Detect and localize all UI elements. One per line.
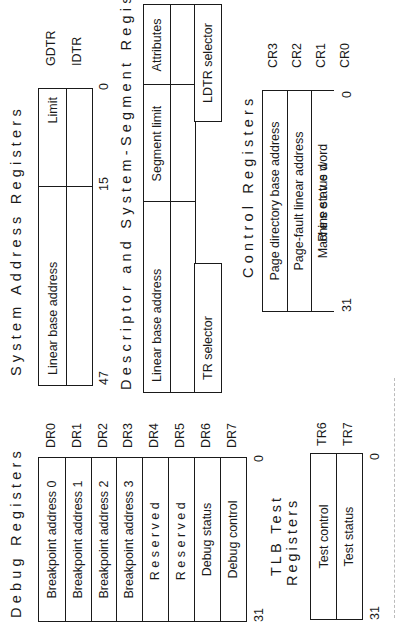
control-bit-31: 31 [340, 298, 354, 312]
tr7-field: Test status [336, 454, 362, 619]
dr5-label: DR5 [173, 423, 187, 448]
dr2-label: DR2 [96, 423, 110, 448]
dr3-label: DR3 [121, 423, 135, 448]
system-address-box: Linear base address Limit [38, 88, 93, 386]
system-address-title: System Address Registers [8, 105, 24, 376]
tlb-bit-31: 31 [368, 606, 382, 620]
bit-15-label: 15 [97, 177, 111, 191]
attributes-field: Attributes [144, 5, 170, 85]
dr7-label: DR7 [225, 423, 239, 448]
tr-selector-field: TR selector [195, 264, 221, 392]
tr7-label: TR7 [341, 422, 355, 446]
dr0-field: Breakpoint address 0 [39, 458, 65, 621]
tlb-bit-0: 0 [368, 453, 382, 460]
ldtr-selector-field: LDTR selector [195, 5, 221, 121]
dr6-field: Debug status [194, 458, 220, 621]
dr7-field: Debug control [220, 458, 246, 621]
bit-47-label: 47 [97, 371, 111, 385]
debug-bit-31: 31 [252, 608, 266, 622]
tlb-title-line1: TLB Test [268, 495, 284, 576]
dr1-label: DR1 [70, 423, 84, 448]
ldtr-selector-box: LDTR selector [194, 4, 222, 122]
control-title: Control Registers [240, 95, 256, 278]
tlb-box: Test control Test status [310, 453, 363, 620]
cr0-field: Machine status word [311, 90, 335, 312]
linear-base-address-field: Linear base address [39, 187, 66, 385]
dr0-label: DR0 [44, 423, 58, 448]
dr4-label: DR4 [147, 423, 161, 448]
cr2-field: Page-fault linear address [287, 91, 311, 311]
descriptor-base-field: Linear base address [144, 202, 170, 392]
cr0-label: CR0 [338, 43, 352, 68]
debug-title: Debug Registers [8, 447, 24, 618]
dr3-field: Breakpoint address 3 [116, 458, 142, 621]
cr3-field: Page directory base address [263, 91, 287, 311]
cr2-label: CR2 [290, 43, 304, 68]
debug-bit-0: 0 [252, 455, 266, 462]
descriptor-box: Linear base address Segment limit Attrib… [143, 4, 196, 393]
dr1-field: Breakpoint address 1 [65, 458, 91, 621]
debug-box: Breakpoint address 0 Breakpoint address … [38, 457, 247, 622]
gdtr-label: GDTR [44, 31, 58, 66]
register-diagram: System Address Registers Linear base add… [0, 0, 402, 638]
idtr-label: IDTR [70, 37, 84, 66]
bit-0-label: 0 [97, 83, 111, 90]
control-bit-0: 0 [340, 91, 354, 98]
dr2-field: Breakpoint address 2 [91, 458, 116, 621]
cr1-label: CR1 [314, 43, 328, 68]
tlb-title-line2: Registers [284, 498, 300, 586]
tr6-label: TR6 [315, 422, 329, 446]
tr6-field: Test control [311, 454, 336, 619]
dr6-label: DR6 [199, 423, 213, 448]
tr-selector-box: TR selector [194, 263, 222, 393]
limit-field: Limit [39, 89, 66, 187]
segment-limit-field: Segment limit [144, 85, 170, 202]
descriptor-title: Descriptor and System-Segment Registers [118, 0, 134, 390]
dr5-field: Reserved [168, 458, 194, 621]
dr4-field: Reserved [142, 458, 168, 621]
cutoff-caption [394, 378, 395, 618]
cr3-label: CR3 [266, 43, 280, 68]
